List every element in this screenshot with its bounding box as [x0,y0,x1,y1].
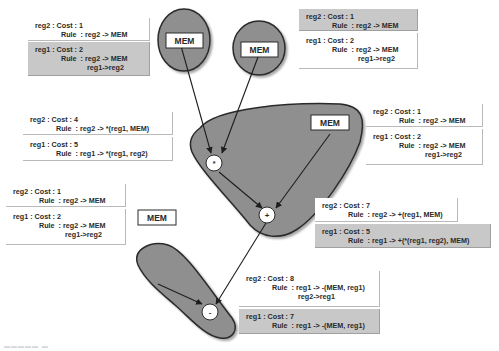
rule-line: Rule : reg2 -> MEM [13,221,119,230]
cost-line: reg2 : Cost : 1 [306,12,411,21]
cost-line: reg2 : Cost : 1 [13,187,119,196]
cost-line: reg2 : Cost : 7 [322,201,451,210]
cost-box-minus-reg2: reg2 : Cost : 8 Rule : reg1 -> -(MEM, re… [239,271,380,307]
cost-line: reg1 : Cost : 2 [13,212,119,221]
rule-line: reg1->reg2 [373,150,476,159]
cost-line: reg2 : Cost : 8 [246,274,373,283]
node-mem1: MEM [166,33,203,48]
node-mem2-label: MEM [250,45,270,55]
node-mem3: MEM [311,115,349,130]
cost-line: reg1 : Cost : 7 [246,312,373,321]
node-mem4-label: MEM [147,213,167,223]
cost-line: reg1 : Cost : 2 [373,132,476,141]
rule-line: reg1->reg2 [35,63,143,72]
rule-line: reg1->reg2 [13,230,119,239]
cost-line: reg1 : Cost : 5 [322,227,484,236]
cost-box-mul-reg1: reg1 : Cost : 5 Rule : reg1 -> *(reg1, r… [23,137,173,161]
rule-line: Rule : reg2 -> MEM [35,54,143,63]
rule-line: reg1->reg2 [306,54,411,63]
rule-line: Rule : reg1 -> -(MEM, reg1) [246,321,373,330]
cost-box-minus-reg1: reg1 : Cost : 7 Rule : reg1 -> -(MEM, re… [239,309,380,334]
node-mul-label: * [213,160,216,167]
cost-line: reg1 : Cost : 2 [35,45,143,54]
cost-box-plus-reg1: reg1 : Cost : 5 Rule : reg1 -> +(*(reg1,… [315,224,491,248]
rule-line: Rule : reg2 -> MEM [373,141,476,150]
rule-line: Rule : reg1 -> +(*(reg1, reg2), MEM) [322,236,484,245]
node-mem4: MEM [138,210,176,225]
figure-caption: ▬▬▬▬▬ ▬ [4,343,49,349]
node-plus-label: + [265,211,270,220]
rule-line: Rule : reg2 -> *(reg1, MEM) [30,124,166,133]
rule-line: reg2->reg1 [246,292,373,301]
cost-box-mem4-reg1: reg1 : Cost : 2 Rule : reg2 -> MEM reg1-… [6,209,126,245]
rule-line: Rule : reg2 -> MEM [373,116,476,125]
cost-box-mem3-reg2: reg2 : Cost : 1 Rule : reg2 -> MEM [366,104,483,127]
cost-box-mem3-reg1: reg1 : Cost : 2 Rule : reg2 -> MEM reg1-… [366,129,483,165]
node-plus: + [259,207,275,223]
cost-box-mul-reg2: reg2 : Cost : 4 Rule : reg2 -> *(reg1, M… [23,112,173,135]
node-mul: * [206,155,222,171]
rule-line: Rule : reg1 -> *(reg1, reg2) [30,149,166,158]
cost-box-plus-reg2: reg2 : Cost : 7 Rule : reg2 -> +(reg1, M… [315,198,458,222]
cost-line: reg1 : Cost : 2 [306,36,411,45]
node-mem1-label: MEM [175,36,195,46]
rule-line: Rule : reg2 -> MEM [35,30,143,39]
cost-line: reg2 : Cost : 1 [35,21,143,30]
rule-line: Rule : reg2 -> +(reg1, MEM) [322,210,451,219]
rule-line: Rule : reg1 -> -(MEM, reg1) [246,283,373,292]
cost-box-mem2-reg1: reg1 : Cost : 2 Rule : reg2 -> MEM reg1-… [299,33,418,69]
cost-line: reg2 : Cost : 4 [30,115,166,124]
cost-box-mem4-reg2: reg2 : Cost : 1 Rule : reg2 -> MEM [6,184,126,207]
node-minus: - [202,304,218,320]
cost-box-mem2-reg2: reg2 : Cost : 1 Rule : reg2 -> MEM [299,9,418,31]
node-mem2: MEM [241,42,278,57]
node-mem3-label: MEM [320,118,340,128]
cost-box-mem1-reg1: reg1 : Cost : 2 Rule : reg2 -> MEM reg1-… [28,42,150,76]
rule-line: Rule : reg2 -> MEM [13,196,119,205]
tile-region-minus [137,244,235,339]
rule-line: Rule : reg2 -> MEM [306,45,411,54]
node-minus-label: - [209,308,212,317]
cost-line: reg2 : Cost : 1 [373,107,476,116]
cost-box-mem1-reg2: reg2 : Cost : 1 Rule : reg2 -> MEM [28,18,150,41]
cost-line: reg1 : Cost : 5 [30,140,166,149]
rule-line: Rule : reg2 -> MEM [306,21,411,30]
